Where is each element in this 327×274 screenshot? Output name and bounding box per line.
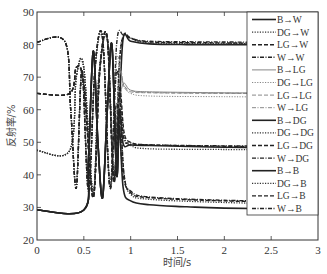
- y-tick-label: 40: [23, 169, 35, 181]
- x-tick-label: 2: [222, 244, 228, 256]
- legend-label: DG→W: [277, 28, 309, 38]
- y-tick-label: 60: [23, 104, 35, 116]
- legend-label: LG→LG: [277, 91, 312, 101]
- legend-label: W→DG: [277, 154, 309, 164]
- y-tick-label: 90: [23, 6, 35, 18]
- y-tick-label: 50: [23, 136, 35, 148]
- y-tick-label: 20: [23, 234, 35, 246]
- x-tick-label: 1: [128, 244, 134, 256]
- y-tick-label: 80: [23, 39, 35, 51]
- legend-label: DG→LG: [277, 78, 313, 88]
- legend-label: DG→B: [277, 179, 307, 189]
- legend: B→WDG→WLG→WW→WB→LGDG→LGLG→LGW→LGB→DGDG→D…: [247, 12, 318, 215]
- legend-label: W→LG: [277, 103, 308, 113]
- x-axis-title: 时间/s: [163, 256, 192, 268]
- legend-label: W→B: [277, 204, 302, 214]
- x-tick-label: 0: [34, 244, 40, 256]
- x-tick-label: 1.5: [171, 244, 185, 256]
- legend-label: LG→B: [277, 191, 306, 201]
- legend-label: B→W: [277, 15, 302, 25]
- legend-label: B→LG: [277, 65, 306, 75]
- legend-label: DG→DG: [277, 128, 314, 138]
- y-axis-title: 反射率/%: [5, 105, 17, 148]
- reflectance-line-chart: 00.511.522.53 2030405060708090 时间/s 反射率/…: [0, 0, 327, 274]
- x-tick-label: 2.5: [264, 244, 278, 256]
- legend-label: B→B: [277, 166, 299, 176]
- x-tick-label: 0.5: [77, 244, 91, 256]
- x-tick-label: 3: [315, 244, 321, 256]
- legend-label: B→DG: [277, 116, 307, 126]
- legend-label: LG→DG: [277, 141, 313, 151]
- legend-label: LG→W: [277, 40, 308, 50]
- y-tick-label: 70: [23, 71, 35, 83]
- legend-label: W→W: [277, 53, 304, 63]
- y-tick-label: 30: [23, 201, 35, 213]
